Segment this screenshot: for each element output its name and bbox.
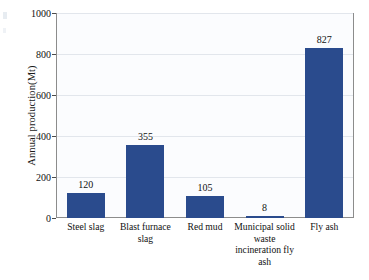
y-tick-label: 600 (11, 90, 51, 101)
y-tick-label: 800 (11, 49, 51, 60)
bar-value-label: 827 (317, 34, 332, 45)
bar[interactable] (67, 193, 105, 218)
bar[interactable] (246, 216, 284, 218)
y-tick-mark (52, 218, 56, 219)
bar-value-label: 8 (262, 202, 267, 213)
bar-group: 105 (175, 13, 235, 218)
y-tick-label: 1000 (11, 8, 51, 19)
bar-group: 355 (116, 13, 176, 218)
x-axis-label: Blast furnace slag (112, 221, 180, 244)
x-axis-label: Red mud (171, 221, 239, 233)
bar-group: 8 (235, 13, 295, 218)
bar-value-label: 355 (138, 131, 153, 142)
bar[interactable] (305, 48, 343, 218)
bar-group: 827 (294, 13, 354, 218)
bar-group: 120 (56, 13, 116, 218)
bar-value-label: 105 (197, 182, 212, 193)
x-axis-label: Fly ash (290, 221, 358, 233)
bar-value-label: 120 (78, 179, 93, 190)
x-axis-label: Municipal solid waste incineration fly a… (231, 221, 299, 267)
bar[interactable] (126, 145, 164, 218)
x-axis-labels: Steel slagBlast furnace slagRed mudMunic… (56, 221, 354, 279)
y-tick-label: 200 (11, 172, 51, 183)
y-tick-label: 400 (11, 131, 51, 142)
bars-layer: 1203551058827 (56, 13, 354, 218)
y-tick-label: 0 (11, 213, 51, 224)
y-axis-title: Annual production(Mt) (26, 41, 37, 191)
bar[interactable] (186, 196, 224, 218)
bar-chart: Annual production(Mt) 02004006008001000 … (0, 0, 369, 280)
x-axis-label: Steel slag (52, 221, 120, 233)
